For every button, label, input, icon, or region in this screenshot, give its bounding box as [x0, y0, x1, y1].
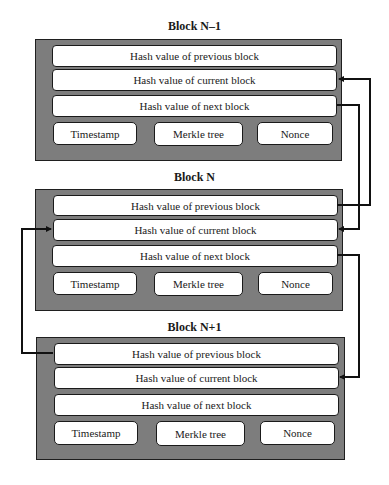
nonce-field: Nonce: [257, 122, 333, 145]
block-n: Hash value of previous block Hash value …: [35, 189, 343, 311]
nonce-field: Nonce: [260, 421, 335, 445]
nonce-field: Nonce: [258, 272, 333, 295]
hash-previous-field: Hash value of previous block: [54, 343, 339, 365]
block-title-n-minus-1: Block N–1: [0, 19, 389, 33]
hash-previous-field: Hash value of previous block: [52, 45, 337, 67]
merkle-tree-field: Merkle tree: [154, 272, 243, 296]
block-title-n: Block N: [0, 170, 389, 184]
block-n-minus-1: Hash value of previous block Hash value …: [35, 39, 342, 161]
hash-previous-field: Hash value of previous block: [53, 195, 338, 216]
timestamp-field: Timestamp: [53, 272, 137, 295]
hash-next-field: Hash value of next block: [54, 394, 339, 416]
timestamp-field: Timestamp: [53, 122, 137, 145]
merkle-tree-field: Merkle tree: [156, 421, 245, 446]
block-title-n-plus-1: Block N+1: [0, 320, 389, 334]
hash-next-field: Hash value of next block: [52, 245, 338, 267]
merkle-tree-field: Merkle tree: [154, 122, 243, 146]
hash-current-field: Hash value of current block: [53, 219, 338, 241]
hash-current-field: Hash value of current block: [52, 69, 337, 91]
block-n-plus-1: Hash value of previous block Hash value …: [36, 337, 345, 460]
timestamp-field: Timestamp: [54, 421, 138, 445]
hash-current-field: Hash value of current block: [54, 367, 339, 389]
hash-next-field: Hash value of next block: [52, 95, 337, 117]
